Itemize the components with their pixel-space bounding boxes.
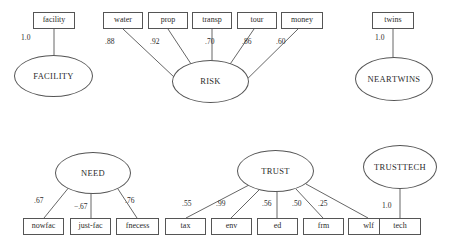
indicator-tax: tax	[165, 218, 206, 235]
node-label-line: tour	[251, 16, 264, 24]
coefficient-trust-tech-tech: 1.0	[382, 201, 391, 210]
edge-layer	[0, 0, 458, 250]
path-edge	[44, 186, 70, 218]
node-label-line: facility	[43, 16, 66, 24]
indicator-frm: frm	[303, 218, 344, 235]
coefficient-need-just-fac: −.67	[74, 202, 88, 211]
node-label-line: transp	[202, 16, 222, 24]
indicator-tour: tour	[237, 12, 277, 29]
coefficient-near-twins-twins: 1.0	[375, 33, 384, 42]
node-label-line: TECH	[403, 163, 426, 172]
coefficient-risk-tour: .86	[242, 37, 251, 46]
indicator-water: water	[103, 12, 143, 29]
node-label-line: FACILITY	[33, 72, 74, 81]
node-label-line: water	[114, 16, 132, 24]
latent-variable-trust: TRUST	[237, 150, 314, 192]
latent-variable-need: NEED	[55, 152, 131, 194]
coefficient-trust-env: .99	[216, 199, 225, 208]
latent-variable-trust-tech: TRUSTTECH	[363, 145, 437, 189]
node-label-line: TRUST	[261, 167, 289, 176]
coefficient-risk-prop: .92	[150, 37, 159, 46]
coefficient-need-fnecess: .76	[125, 196, 134, 205]
node-label-line: NEAR	[368, 75, 392, 84]
node-label-line: TRUST	[374, 163, 402, 172]
latent-variable-facility: FACILITY	[14, 55, 93, 97]
node-label-line: fnecess	[126, 222, 150, 230]
indicator-ed: ed	[257, 218, 298, 235]
indicator-just-fac: just-fac	[70, 218, 111, 235]
coefficient-facility-facility: 1.0	[21, 33, 30, 42]
path-edge	[231, 190, 259, 218]
indicator-env: env	[211, 218, 252, 235]
coefficient-trust-ed: .56	[262, 199, 271, 208]
node-label-line: wlf	[363, 222, 374, 230]
coefficient-risk-money: .60	[276, 37, 285, 46]
coefficient-trust-tax: .55	[182, 199, 191, 208]
node-label-line: frm	[318, 222, 330, 230]
node-label-line: env	[226, 222, 238, 230]
path-diagram: FACILITYfacility1.0RISKwater.88prop.92tr…	[0, 0, 458, 250]
coefficient-risk-water: .88	[105, 37, 114, 46]
node-label-line: just-fac	[79, 222, 103, 230]
coefficient-trust-frm: .50	[292, 199, 301, 208]
node-label-line: money	[291, 16, 313, 24]
coefficient-need-nowfac: .67	[34, 196, 43, 205]
node-label-line: NEED	[81, 169, 105, 178]
node-label-line: TWINS	[392, 75, 420, 84]
indicator-money: money	[281, 12, 323, 29]
indicator-prop: prop	[148, 12, 188, 29]
indicator-fnecess: fnecess	[116, 218, 159, 235]
coefficient-risk-transp: .70	[205, 37, 214, 46]
node-label-line: RISK	[200, 77, 221, 86]
node-label-line: tax	[181, 222, 191, 230]
path-edge	[306, 184, 368, 218]
indicator-transp: transp	[192, 12, 232, 29]
node-label-line: tech	[393, 222, 406, 230]
indicator-facility: facility	[33, 12, 75, 29]
node-label-line: nowfac	[32, 222, 56, 230]
coefficient-trust-wlf: .25	[318, 199, 327, 208]
node-label-line: ed	[274, 222, 282, 230]
latent-variable-risk: RISK	[172, 60, 249, 103]
latent-variable-near-twins: NEARTWINS	[355, 57, 433, 101]
node-label-line: prop	[161, 16, 176, 24]
indicator-nowfac: nowfac	[23, 218, 64, 235]
indicator-twins: twins	[372, 12, 414, 29]
indicator-tech: tech	[379, 218, 421, 235]
node-label-line: twins	[384, 16, 401, 24]
